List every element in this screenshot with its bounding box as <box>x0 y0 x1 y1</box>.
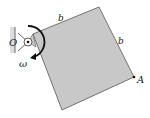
label-side-top: b <box>58 13 64 23</box>
label-pivot: O <box>9 37 17 48</box>
label-omega: ω <box>19 58 27 69</box>
square-plate <box>33 7 134 110</box>
omega-arrowhead-icon <box>30 53 36 60</box>
pivot-center <box>27 41 30 44</box>
corner-point <box>133 76 136 79</box>
label-corner: A <box>136 74 144 85</box>
label-side-right: b <box>118 36 124 46</box>
rotating-plate-diagram: O b b A ω <box>0 0 150 118</box>
